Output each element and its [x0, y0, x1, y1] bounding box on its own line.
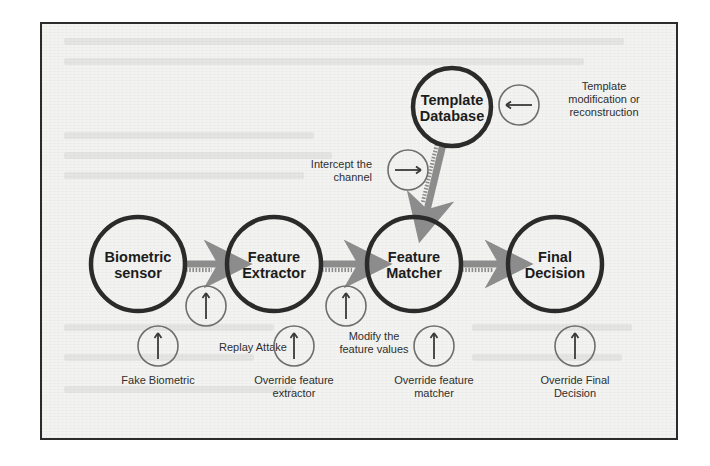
diagram-svg: BiometricsensorFeatureExtractorFeatureMa… — [42, 24, 678, 440]
up-arrow-icon — [203, 293, 210, 319]
node-final-decision[interactable]: FinalDecision — [508, 217, 602, 311]
attack-fake-biometric[interactable]: Fake Biometric — [121, 326, 195, 386]
attack-label: Modify thefeature values — [339, 330, 409, 355]
node-template-database[interactable]: TemplateDatabase — [413, 68, 491, 146]
node-label: FeatureMatcher — [386, 249, 442, 281]
screenshot-canvas: BiometricsensorFeatureExtractorFeatureMa… — [0, 0, 710, 466]
attack-layer: Fake BiometricReplay AttakeOverride feat… — [121, 80, 640, 399]
node-label: Biometricsensor — [105, 249, 172, 281]
flow-arrow-sensor-to-extractor — [186, 264, 226, 270]
attack-label: Fake Biometric — [121, 374, 195, 386]
flow-arrow-database-to-matcher — [423, 144, 443, 217]
node-biometric-sensor[interactable]: Biometricsensor — [91, 217, 185, 311]
attack-template-modification[interactable]: Templatemodification orreconstruction — [499, 80, 640, 125]
up-arrow-icon — [291, 333, 298, 359]
node-label: FeatureExtractor — [242, 249, 306, 281]
node-label: FinalDecision — [525, 249, 585, 281]
attack-modify-feature-values[interactable]: Modify thefeature values — [326, 286, 409, 355]
attack-intercept-the-channel[interactable]: Intercept thechannel — [311, 150, 428, 190]
figure-frame: BiometricsensorFeatureExtractorFeatureMa… — [40, 22, 678, 440]
flow-arrow-matcher-to-decision — [462, 264, 507, 270]
attack-label: Override featureextractor — [254, 374, 333, 399]
attack-label: Override FinalDecision — [540, 374, 609, 399]
left-arrow-icon — [506, 102, 532, 109]
node-label: TemplateDatabase — [420, 92, 484, 124]
flow-arrow-extractor-to-matcher — [322, 264, 366, 270]
attack-label: Replay Attake — [219, 341, 287, 353]
attack-label: Override featurematcher — [394, 374, 473, 399]
up-arrow-icon — [155, 333, 162, 359]
attack-label: Intercept thechannel — [311, 158, 372, 183]
attack-override-feature-extractor[interactable]: Override featureextractor — [254, 326, 333, 399]
node-feature-matcher[interactable]: FeatureMatcher — [367, 217, 461, 311]
attack-override-final-decision[interactable]: Override FinalDecision — [540, 326, 609, 399]
attack-override-feature-matcher[interactable]: Override featurematcher — [394, 326, 473, 399]
attack-label: Templatemodification orreconstruction — [568, 80, 640, 118]
up-arrow-icon — [431, 333, 438, 359]
right-arrow-icon — [395, 167, 421, 174]
up-arrow-icon — [343, 293, 350, 319]
attack-replay-attack[interactable]: Replay Attake — [186, 286, 287, 353]
node-feature-extractor[interactable]: FeatureExtractor — [227, 217, 321, 311]
up-arrow-icon — [572, 333, 579, 359]
